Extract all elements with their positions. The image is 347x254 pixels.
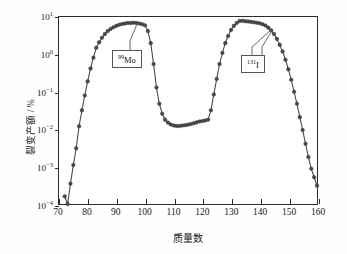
- data-point: [97, 41, 101, 45]
- data-point: [83, 94, 87, 98]
- data-point: [163, 118, 167, 122]
- x-tick-label-0: 70: [53, 208, 63, 218]
- x-tick-label-4: 110: [167, 208, 181, 218]
- x-tick-label-6: 130: [224, 208, 238, 218]
- data-point: [218, 62, 222, 66]
- annotation-i131: 131I: [241, 55, 265, 73]
- data-point: [72, 163, 76, 167]
- data-point: [160, 112, 164, 116]
- data-point: [80, 109, 84, 113]
- data-point: [69, 182, 73, 186]
- data-point: [149, 41, 153, 45]
- curve-line: [65, 21, 317, 204]
- data-point: [103, 32, 107, 36]
- data-point: [292, 90, 296, 94]
- data-point: [312, 175, 316, 179]
- annotation-mo99-symbol: Mo: [124, 55, 136, 65]
- x-tick-label-8: 150: [282, 208, 296, 218]
- x-tick-label-3: 100: [138, 208, 152, 218]
- y-tick-label-1: 100: [41, 48, 53, 59]
- data-point: [100, 36, 104, 40]
- x-axis-title: 质量数: [173, 230, 203, 245]
- data-point: [92, 56, 96, 60]
- chart-figure: 裂变产额 / % 质量数 10110010−110−210−310−4 7080…: [0, 0, 347, 254]
- data-point: [209, 109, 213, 113]
- data-point: [315, 184, 319, 188]
- y-tick-label-5: 10−4: [37, 200, 53, 211]
- plot-area: [58, 16, 318, 205]
- x-tick-label-2: 90: [111, 208, 121, 218]
- data-point: [226, 34, 230, 38]
- data-point: [221, 51, 225, 55]
- data-point: [278, 43, 282, 47]
- data-point: [206, 118, 210, 122]
- data-point: [63, 195, 67, 199]
- data-point: [66, 202, 70, 206]
- x-tick-label-5: 120: [195, 208, 209, 218]
- x-tick-9: [319, 199, 320, 204]
- data-point: [146, 29, 150, 33]
- y-tick-label-3: 10−2: [37, 124, 53, 135]
- data-point: [232, 24, 236, 28]
- data-point: [229, 28, 233, 32]
- y-tick-label-0: 101: [41, 11, 53, 22]
- data-point: [223, 41, 227, 45]
- data-point: [309, 167, 313, 171]
- data-point: [281, 50, 285, 54]
- x-tick-label-1: 80: [82, 208, 92, 218]
- data-point: [301, 128, 305, 132]
- annotation-mo99: 99Mo: [112, 50, 142, 68]
- fission-yield-curve: [59, 17, 317, 204]
- data-point: [275, 37, 279, 41]
- data-point: [307, 155, 311, 159]
- annotation-i131-mass: 131: [247, 59, 256, 65]
- data-point: [266, 26, 270, 30]
- data-point: [269, 29, 273, 33]
- data-point: [212, 93, 216, 97]
- data-point: [295, 102, 299, 106]
- data-point: [158, 102, 162, 106]
- annotation-i131-symbol: I: [256, 60, 259, 70]
- data-point: [298, 115, 302, 119]
- data-point: [152, 62, 156, 66]
- data-point: [77, 124, 81, 128]
- data-point: [304, 142, 308, 146]
- data-point: [86, 80, 90, 84]
- data-point: [215, 77, 219, 81]
- data-point: [284, 58, 288, 62]
- x-tick-label-7: 140: [253, 208, 267, 218]
- y-tick-label-4: 10−3: [37, 162, 53, 173]
- data-point: [89, 67, 93, 71]
- data-point: [155, 86, 159, 90]
- y-axis-title: 裂变产额 / %: [23, 99, 37, 154]
- data-point: [143, 24, 147, 28]
- data-point: [287, 67, 291, 71]
- data-point: [289, 78, 293, 82]
- data-point: [94, 46, 98, 50]
- x-tick-label-9: 160: [311, 208, 325, 218]
- data-point: [272, 32, 276, 36]
- y-tick-label-2: 10−1: [37, 86, 53, 97]
- data-point: [74, 146, 78, 150]
